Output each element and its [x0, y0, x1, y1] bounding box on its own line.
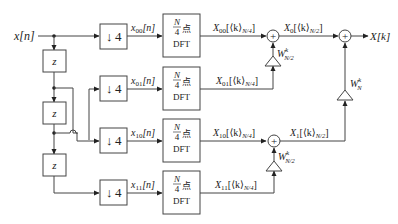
- adder-3: +: [268, 135, 280, 147]
- downsampler-4: ↓ 4: [100, 180, 127, 205]
- adder-1: +: [267, 30, 279, 42]
- delay-label-1: z: [51, 55, 57, 67]
- output-label: X[k]: [369, 30, 390, 42]
- wire-to-downsampler-2: [89, 89, 99, 140]
- downsampler-3: ↓ 4: [100, 128, 127, 153]
- downsample-factor: 4: [115, 185, 122, 200]
- twiddle-label-1: WkN/2: [277, 46, 294, 61]
- svg-text:点: 点: [182, 77, 191, 87]
- adder-2: +: [339, 30, 351, 42]
- signal-label-x10: x10[n]: [130, 127, 155, 140]
- fft-block-diagram: x[n] z z z ↓ 4 ↓ 4 ↓ 4 ↓ 4: [0, 0, 398, 224]
- svg-text:DFT: DFT: [173, 144, 191, 154]
- delay-label-3: z: [51, 159, 57, 171]
- plus-icon: +: [270, 30, 276, 42]
- svg-text:DFT: DFT: [173, 196, 191, 206]
- twiddle-gain-2: [266, 161, 282, 171]
- input-label: x[n]: [13, 29, 35, 43]
- downsampler-2: ↓ 4: [100, 76, 127, 101]
- svg-text:N: N: [173, 17, 181, 27]
- dft-output-label-X11: X11[⟨k⟩N/4]: [214, 179, 257, 192]
- downsampler-1: ↓ 4: [100, 24, 127, 49]
- intermediate-label-X1: X1[⟨k⟩N/2]: [289, 127, 329, 140]
- twiddle-gain-3: [337, 90, 353, 100]
- twiddle-label-2: WkN/2: [278, 149, 295, 164]
- dft-block-2: N 4 点 DFT: [163, 67, 200, 110]
- svg-text:4: 4: [175, 184, 180, 194]
- svg-text:点: 点: [182, 181, 191, 191]
- downsample-factor: 4: [115, 29, 122, 44]
- down-arrow-icon: ↓: [106, 81, 113, 96]
- dft-output-label-X10: X10[⟨k⟩N/4]: [212, 127, 255, 140]
- svg-text:4: 4: [175, 80, 180, 90]
- svg-text:N: N: [173, 174, 181, 184]
- svg-text:4: 4: [175, 27, 180, 37]
- downsample-factor: 4: [115, 133, 122, 148]
- down-arrow-icon: ↓: [106, 185, 113, 200]
- svg-text:点: 点: [182, 129, 191, 139]
- dft-output-label-X00: X00[⟨k⟩N/4]: [212, 22, 255, 35]
- svg-text:N: N: [173, 70, 181, 80]
- svg-text:DFT: DFT: [173, 92, 191, 102]
- dft-block-1: N 4 点 DFT: [163, 14, 200, 57]
- downsample-factor: 4: [115, 81, 122, 96]
- twiddle-label-3: WkN: [350, 76, 362, 91]
- wire-to-downsampler-4: [54, 176, 99, 193]
- plus-icon: +: [271, 135, 277, 147]
- intermediate-label-X0: X0[⟨k⟩N/2]: [283, 22, 323, 35]
- dft-block-3: N 4 点 DFT: [163, 119, 200, 162]
- down-arrow-icon: ↓: [106, 133, 113, 148]
- plus-icon: +: [342, 30, 348, 42]
- dft-output-label-X01: X01[⟨k⟩N/4]: [215, 75, 258, 88]
- signal-label-x00: x00[n]: [130, 22, 155, 35]
- svg-text:N: N: [173, 122, 181, 132]
- svg-text:点: 点: [182, 24, 191, 34]
- svg-text:4: 4: [175, 132, 180, 142]
- signal-label-x01: x01[n]: [130, 75, 155, 88]
- svg-text:DFT: DFT: [173, 39, 191, 49]
- delay-label-2: z: [51, 107, 57, 119]
- wire-to-downsampler-3: [54, 130, 99, 141]
- dft-block-4: N 4 点 DFT: [163, 171, 200, 214]
- down-arrow-icon: ↓: [106, 29, 113, 44]
- signal-label-x11: x11[n]: [130, 179, 155, 192]
